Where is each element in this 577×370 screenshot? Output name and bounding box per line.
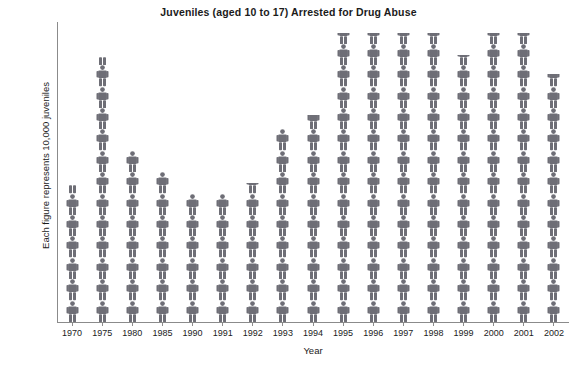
person-icon: [126, 194, 139, 215]
person-icon: [66, 215, 79, 236]
person-icon: [487, 87, 500, 108]
person-icon: [216, 236, 229, 257]
person-icon: [96, 108, 109, 129]
x-axis-tick: [433, 322, 434, 326]
person-icon: [367, 44, 380, 65]
person-icon: [427, 87, 440, 108]
person-icon-partial: [96, 57, 109, 66]
person-icon: [397, 172, 410, 193]
person-icon: [276, 301, 289, 322]
person-icon: [487, 194, 500, 215]
person-icon: [126, 151, 139, 172]
x-axis-tick: [463, 322, 464, 326]
person-icon: [517, 258, 530, 279]
person-icon: [156, 301, 169, 322]
person-icon: [96, 194, 109, 215]
person-icon: [126, 301, 139, 322]
person-icon: [427, 44, 440, 65]
person-icon: [397, 151, 410, 172]
person-icon: [337, 129, 350, 150]
person-icon: [276, 172, 289, 193]
person-icon: [487, 279, 500, 300]
person-icon: [96, 215, 109, 236]
person-icon: [427, 215, 440, 236]
person-icon: [457, 279, 470, 300]
person-icon: [337, 194, 350, 215]
person-icon: [457, 301, 470, 322]
person-icon: [156, 279, 169, 300]
person-icon: [457, 87, 470, 108]
person-icon: [487, 151, 500, 172]
chart-column: [419, 22, 447, 322]
chart-column: [148, 22, 176, 322]
person-icon: [307, 301, 320, 322]
person-icon: [547, 236, 560, 257]
person-icon: [397, 44, 410, 65]
person-icon: [367, 65, 380, 86]
person-icon: [517, 215, 530, 236]
person-icon: [276, 151, 289, 172]
chart-column: [299, 22, 327, 322]
person-icon: [427, 151, 440, 172]
person-icon: [276, 236, 289, 257]
person-icon: [156, 172, 169, 193]
person-icon: [96, 301, 109, 322]
person-icon: [66, 301, 79, 322]
figure-stack: [239, 183, 267, 322]
x-axis-tick: [343, 322, 344, 326]
person-icon: [126, 236, 139, 257]
person-icon-partial: [367, 33, 380, 44]
person-icon: [337, 87, 350, 108]
person-icon: [457, 236, 470, 257]
person-icon: [547, 151, 560, 172]
person-icon: [96, 172, 109, 193]
person-icon: [457, 65, 470, 86]
person-icon: [487, 172, 500, 193]
person-icon: [487, 215, 500, 236]
person-icon: [397, 129, 410, 150]
person-icon: [337, 151, 350, 172]
person-icon: [156, 258, 169, 279]
person-icon: [367, 301, 380, 322]
person-icon: [337, 258, 350, 279]
person-icon: [186, 279, 199, 300]
person-icon: [307, 151, 320, 172]
person-icon: [517, 87, 530, 108]
person-icon: [156, 215, 169, 236]
person-icon: [427, 301, 440, 322]
person-icon: [547, 194, 560, 215]
person-icon: [427, 172, 440, 193]
person-icon: [427, 65, 440, 86]
chart-column: [450, 22, 478, 322]
person-icon: [307, 236, 320, 257]
person-icon: [367, 108, 380, 129]
person-icon: [337, 44, 350, 65]
person-icon: [126, 172, 139, 193]
plot-area: [57, 22, 569, 322]
person-icon: [397, 194, 410, 215]
figure-stack: [389, 33, 417, 322]
x-axis-tick: [72, 322, 73, 326]
person-icon: [307, 279, 320, 300]
person-icon: [337, 172, 350, 193]
person-icon: [457, 129, 470, 150]
person-icon: [547, 301, 560, 322]
person-icon: [427, 279, 440, 300]
person-icon: [397, 65, 410, 86]
x-axis-tick: [102, 322, 103, 326]
person-icon: [397, 258, 410, 279]
person-icon: [547, 129, 560, 150]
person-icon-partial: [66, 185, 79, 194]
x-axis-tick: [523, 322, 524, 326]
person-icon: [276, 258, 289, 279]
page-title: Juveniles (aged 10 to 17) Arrested for D…: [0, 6, 577, 18]
x-axis-tick: [403, 322, 404, 326]
figure-stack: [329, 33, 357, 322]
person-icon-partial: [246, 183, 259, 194]
person-icon: [307, 172, 320, 193]
person-icon: [216, 301, 229, 322]
person-icon: [427, 129, 440, 150]
person-icon-partial: [397, 33, 410, 44]
x-axis-tick: [252, 322, 253, 326]
person-icon: [517, 194, 530, 215]
